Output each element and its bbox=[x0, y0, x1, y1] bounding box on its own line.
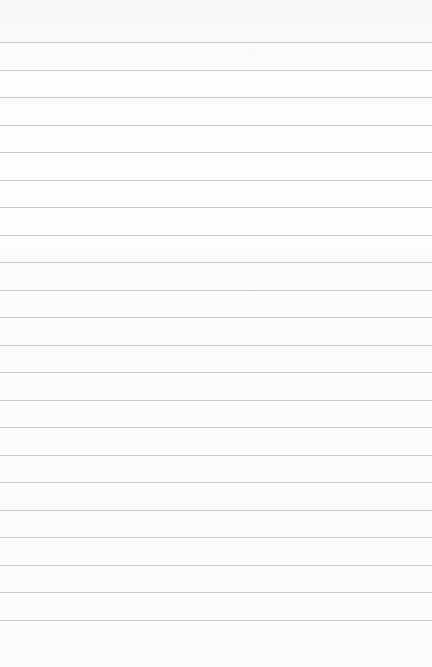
ruled-line bbox=[0, 592, 432, 593]
lined-paper bbox=[0, 0, 432, 667]
ruled-line bbox=[0, 152, 432, 153]
ruled-line bbox=[0, 235, 432, 236]
ruled-line bbox=[0, 317, 432, 318]
ruled-line bbox=[0, 565, 432, 566]
ruled-line bbox=[0, 70, 432, 71]
ruled-line bbox=[0, 455, 432, 456]
ruled-line bbox=[0, 537, 432, 538]
ruled-line bbox=[0, 482, 432, 483]
ruled-line bbox=[0, 97, 432, 98]
ruled-line bbox=[0, 372, 432, 373]
ruled-line bbox=[0, 620, 432, 621]
ruled-line bbox=[0, 125, 432, 126]
ruled-line bbox=[0, 427, 432, 428]
ruled-line bbox=[0, 345, 432, 346]
ruled-line bbox=[0, 400, 432, 401]
ruled-line bbox=[0, 180, 432, 181]
ruled-line bbox=[0, 42, 432, 43]
ruled-line bbox=[0, 290, 432, 291]
ruled-line bbox=[0, 207, 432, 208]
ruled-line bbox=[0, 510, 432, 511]
ruled-line bbox=[0, 262, 432, 263]
